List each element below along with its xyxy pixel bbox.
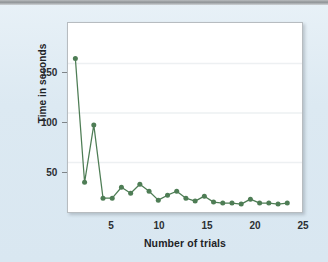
gridlines — [68, 64, 302, 163]
data-point — [220, 201, 225, 206]
top-divider-rule — [0, 0, 328, 5]
x-axis-title: Number of trials — [67, 237, 303, 249]
x-tick-label-20: 20 — [245, 220, 265, 231]
x-tick-label-15: 15 — [197, 220, 217, 231]
plot-area — [67, 22, 303, 213]
data-point — [147, 189, 152, 194]
data-point — [285, 201, 290, 206]
x-tick-label-5: 5 — [101, 220, 121, 231]
x-tick-label-10: 10 — [149, 220, 169, 231]
data-point — [239, 202, 244, 207]
data-point — [202, 194, 207, 199]
y-tick-label-150: 150 — [31, 67, 57, 78]
data-point — [73, 56, 78, 61]
data-point — [82, 180, 87, 185]
data-point — [193, 199, 198, 204]
data-point — [101, 196, 106, 201]
x-tick-label-25: 25 — [293, 220, 313, 231]
y-tick-label-100: 100 — [31, 117, 57, 128]
data-point — [229, 201, 234, 206]
data-series-time-in-seconds — [73, 56, 290, 206]
data-point — [248, 197, 253, 202]
series-markers — [73, 56, 290, 206]
data-point — [257, 201, 262, 206]
data-point — [276, 202, 281, 207]
data-point — [183, 196, 188, 201]
data-point — [110, 196, 115, 201]
data-point — [137, 182, 142, 187]
data-point — [128, 191, 133, 196]
data-point — [156, 198, 161, 203]
line-chart-svg — [68, 23, 302, 212]
series-line — [75, 59, 287, 204]
data-point — [174, 189, 179, 194]
y-tick-label-50: 50 — [31, 167, 57, 178]
data-point — [91, 122, 96, 127]
figure-container: Time in seconds 150 100 50 5 10 15 20 25… — [0, 0, 328, 262]
data-point — [211, 200, 216, 205]
data-point — [165, 193, 170, 198]
data-point — [119, 185, 124, 190]
data-point — [266, 201, 271, 206]
